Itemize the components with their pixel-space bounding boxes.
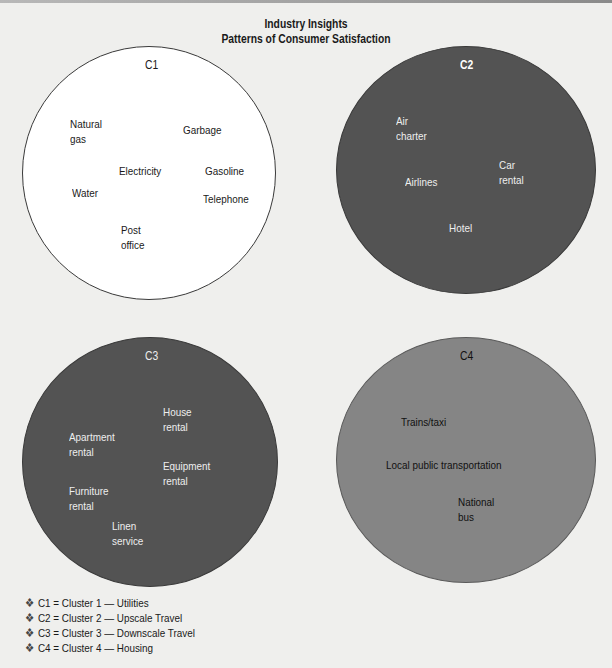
top-border xyxy=(0,0,612,3)
item-telephone: Telephone xyxy=(203,192,249,207)
item-local-public-transportation: Local public transportation xyxy=(386,458,501,473)
cluster-c4-label: C4 xyxy=(460,349,473,364)
item-apartment-rental: Apartmentrental xyxy=(69,430,115,460)
cluster-c2-circle: C2 Aircharter Carrental Airlines Hotel xyxy=(336,46,596,294)
legend: ❖C1 = Cluster 1 — Utilities ❖C2 = Cluste… xyxy=(25,596,222,656)
diagram-title: Industry Insights Patterns of Consumer S… xyxy=(43,17,569,47)
item-hotel: Hotel xyxy=(449,221,472,236)
item-house-rental: Houserental xyxy=(163,405,192,435)
item-equipment-rental: Equipmentrental xyxy=(163,459,210,489)
title-line: Industry Insights xyxy=(43,17,569,32)
item-linen-service: Linenservice xyxy=(112,519,143,549)
item-water: Water xyxy=(72,186,98,201)
cluster-c1-circle: C1 Naturalgas Garbage Electricity Gasoli… xyxy=(22,46,276,300)
legend-row-c3: ❖C3 = Cluster 3 — Downscale Travel xyxy=(25,626,195,641)
subtitle-line: Patterns of Consumer Satisfaction xyxy=(43,32,569,47)
diamond-bullet-icon: ❖ xyxy=(25,642,34,654)
item-garbage: Garbage xyxy=(183,123,221,138)
cluster-c4-circle: C4 Trains/taxi Local public transportati… xyxy=(336,337,596,583)
item-post-office: Postoffice xyxy=(121,223,144,253)
item-electricity: Electricity xyxy=(119,164,161,179)
item-airlines: Airlines xyxy=(405,175,437,190)
item-furniture-rental: Furniturerental xyxy=(69,484,109,514)
item-national-bus: Nationalbus xyxy=(458,495,494,525)
cluster-c2-label: C2 xyxy=(460,58,473,73)
item-car-rental: Carrental xyxy=(499,158,524,188)
diamond-bullet-icon: ❖ xyxy=(25,627,34,639)
item-trains-taxi: Trains/taxi xyxy=(401,415,446,430)
legend-row-c2: ❖C2 = Cluster 2 — Upscale Travel xyxy=(25,611,195,626)
diamond-bullet-icon: ❖ xyxy=(25,597,34,609)
item-gasoline: Gasoline xyxy=(205,164,244,179)
legend-row-c4: ❖C4 = Cluster 4 — Housing xyxy=(25,641,195,656)
legend-row-c1: ❖C1 = Cluster 1 — Utilities xyxy=(25,596,195,611)
item-air-charter: Aircharter xyxy=(396,114,427,144)
cluster-c3-circle: C3 Houserental Apartmentrental Equipment… xyxy=(22,337,278,587)
diamond-bullet-icon: ❖ xyxy=(25,612,34,624)
item-natural-gas: Naturalgas xyxy=(70,117,102,147)
cluster-c1-label: C1 xyxy=(145,58,158,73)
cluster-c3-label: C3 xyxy=(145,349,158,364)
